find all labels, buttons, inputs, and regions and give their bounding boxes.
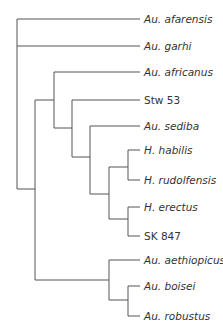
taxon-label: Au. africanus [144,66,213,78]
taxon-label: Au. sediba [144,120,199,132]
taxon-label: H. erectus [144,201,198,213]
taxon-label: Au. robustus [144,310,210,322]
taxon-label: H. habilis [144,144,193,156]
taxon-label: Au. aethiopicus [144,254,223,266]
taxon-label: Au. garhi [144,40,192,52]
taxon-label: Au. afarensis [144,13,212,25]
taxon-label: SK 847 [144,230,181,242]
taxon-label: Au. boisei [144,280,195,292]
taxon-label: Stw 53 [144,94,180,106]
taxon-label: H. rudolfensis [144,174,216,186]
